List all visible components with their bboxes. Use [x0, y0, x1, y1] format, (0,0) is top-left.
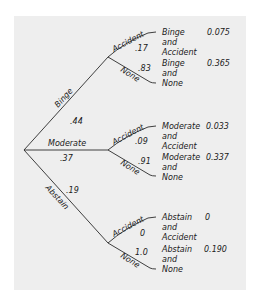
- outcome-line: None: [162, 79, 183, 88]
- outcome-line: Binge: [162, 28, 185, 37]
- prob-abstain-none: 1.0: [135, 248, 148, 257]
- outcome-line: and: [162, 38, 178, 47]
- outcome-line: and: [162, 132, 178, 141]
- branch-binge: [24, 57, 108, 150]
- joint-prob: 0.365: [207, 59, 230, 68]
- outcome-line: Moderate: [162, 122, 200, 131]
- outcome-moderate-none: Moderate and None 0.337: [162, 153, 230, 182]
- prob-moderate: .37: [60, 154, 74, 163]
- outcome-line: Accident: [161, 233, 198, 242]
- outcome-abstain-none: Abstain and None 0.190: [161, 245, 227, 274]
- outcome-line: Abstain: [161, 213, 192, 222]
- branch-abstain: [24, 150, 108, 243]
- outcome-binge-accident: Binge and Accident 0.075: [161, 28, 230, 57]
- prob-abstain-accident: 0: [140, 229, 145, 238]
- outcome-line: Accident: [161, 142, 198, 151]
- outcome-line: Binge: [162, 59, 185, 68]
- prob-binge-none: .83: [138, 64, 151, 73]
- joint-prob: 0.337: [206, 153, 230, 162]
- outcome-line: Moderate: [162, 153, 200, 162]
- outcome-line: Abstain: [161, 245, 192, 254]
- joint-prob: 0.075: [207, 28, 230, 37]
- joint-prob: 0.190: [204, 245, 227, 254]
- joint-prob: 0.033: [206, 122, 229, 131]
- outcome-line: None: [162, 173, 183, 182]
- level1-branches: [24, 57, 108, 243]
- outcome-line: and: [162, 163, 178, 172]
- joint-prob: 0: [205, 213, 210, 222]
- outcome-line: and: [162, 69, 178, 78]
- outcome-line: and: [162, 223, 178, 232]
- outcome-line: and: [162, 255, 178, 264]
- outcome-abstain-accident: Abstain and Accident 0: [161, 213, 210, 242]
- probability-tree: Binge .44 Moderate .37 .19 Abstain Accid…: [0, 0, 256, 305]
- outcome-line: Accident: [161, 48, 198, 57]
- prob-binge: .44: [70, 117, 83, 126]
- prob-moderate-accident: .09: [135, 137, 148, 146]
- outcome-binge-none: Binge and None 0.365: [162, 59, 230, 88]
- outcome-moderate-accident: Moderate and Accident 0.033: [161, 122, 229, 151]
- prob-moderate-none: .91: [138, 157, 151, 166]
- label-moderate: Moderate: [48, 139, 86, 148]
- prob-abstain: .19: [66, 186, 79, 195]
- outcome-line: None: [162, 265, 183, 274]
- prob-binge-accident: .17: [135, 44, 149, 53]
